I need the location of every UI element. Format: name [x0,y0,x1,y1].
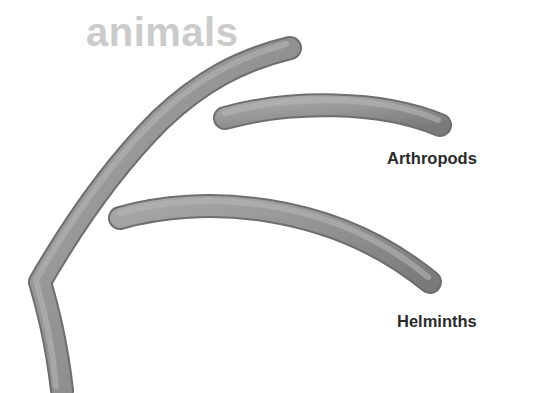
label-helminths: Helminths [397,312,477,331]
phylogeny-diagram: animals Arthropods Helminths [0,0,542,393]
label-arthropods: Arthropods [387,149,477,168]
branch-tree [0,0,542,393]
diagram-title: animals [86,10,238,55]
